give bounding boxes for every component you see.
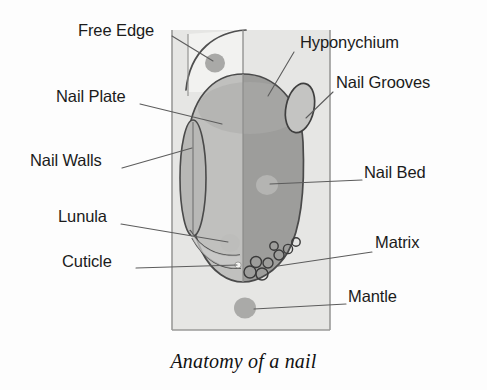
- lunula-marker-dot: [220, 234, 240, 252]
- label-mantle: Mantle: [348, 288, 397, 305]
- free-edge-marker-dot: [205, 54, 225, 73]
- nail-anatomy-illustration: [0, 0, 487, 390]
- label-hyponychium: Hyponychium: [300, 34, 399, 51]
- mantle-marker-dot: [234, 298, 256, 319]
- label-nail-grooves: Nail Grooves: [336, 74, 430, 91]
- label-cuticle: Cuticle: [62, 253, 112, 270]
- label-nail-plate: Nail Plate: [56, 88, 126, 105]
- mantle-region: [234, 298, 256, 319]
- anatomy-figure: Free Edge Hyponychium Nail Grooves Nail …: [0, 0, 487, 390]
- nail-walls-region: [180, 120, 206, 236]
- label-lunula: Lunula: [58, 208, 107, 225]
- label-matrix: Matrix: [375, 234, 419, 251]
- figure-caption: Anatomy of a nail: [0, 350, 487, 373]
- label-free-edge: Free Edge: [78, 22, 154, 39]
- nail-bed-marker-dot: [256, 175, 278, 195]
- label-nail-bed: Nail Bed: [364, 164, 426, 181]
- label-nail-walls: Nail Walls: [30, 152, 102, 169]
